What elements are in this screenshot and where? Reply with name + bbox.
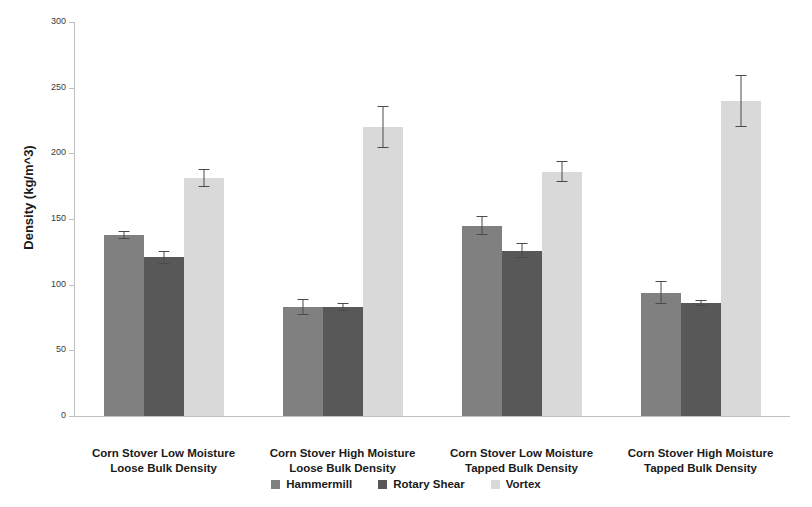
error-bar-cap-top	[337, 303, 348, 304]
y-axis-tick-mark	[69, 285, 74, 286]
bar-slot	[283, 22, 323, 416]
error-bar	[521, 243, 522, 259]
error-bar	[302, 299, 303, 315]
plot-area: 300250200150100500 Corn Stover Low Moist…	[74, 22, 790, 416]
y-axis-tick-mark	[69, 416, 74, 417]
y-axis-tick-mark	[69, 153, 74, 154]
bar-group	[641, 22, 761, 416]
error-bar-cap-top	[377, 106, 388, 107]
error-bar	[700, 300, 701, 305]
legend-swatch	[271, 480, 280, 489]
category-label-line: Tapped Bulk Density	[605, 461, 796, 476]
category-label-line: Loose Bulk Density	[247, 461, 438, 476]
error-bar	[481, 216, 482, 234]
legend-swatch	[491, 480, 500, 489]
y-axis-title: Density (kg/m^3)	[21, 108, 36, 288]
error-bar-cap-bottom	[297, 314, 308, 315]
error-bar-cap-top	[516, 243, 527, 244]
bar-vortex	[721, 101, 761, 416]
error-bar-cap-bottom	[516, 257, 527, 258]
error-bar-cap-bottom	[198, 186, 209, 187]
bar-hammermill	[104, 235, 144, 416]
bar-slot	[542, 22, 582, 416]
y-axis-tick-label: 150	[28, 214, 66, 223]
error-bar-cap-top	[556, 161, 567, 162]
bar-chart: Density (kg/m^3) 300250200150100500 Corn…	[0, 0, 812, 507]
error-bar	[163, 251, 164, 264]
y-axis-tick-mark	[69, 350, 74, 351]
bar-hammermill	[462, 226, 502, 416]
category-label-line: Tapped Bulk Density	[426, 461, 617, 476]
y-axis-tick-label: 300	[28, 17, 66, 26]
error-bar-cap-top	[118, 231, 129, 232]
error-bar-cap-top	[735, 75, 746, 76]
bar-slot	[144, 22, 184, 416]
legend-item-vortex: Vortex	[491, 478, 541, 490]
bar-group	[104, 22, 224, 416]
y-axis-tick-mark	[69, 219, 74, 220]
category-label-line: Loose Bulk Density	[68, 461, 259, 476]
bar-vortex	[542, 172, 582, 416]
error-bar-cap-bottom	[476, 234, 487, 235]
error-bar	[342, 303, 343, 311]
y-axis-tick-label: 250	[28, 83, 66, 92]
y-axis-line	[74, 22, 75, 416]
error-bar-cap-top	[198, 169, 209, 170]
bar-vortex	[184, 178, 224, 416]
error-bar	[203, 169, 204, 187]
error-bar-cap-bottom	[158, 263, 169, 264]
category-label: Corn Stover High MoistureLoose Bulk Dens…	[247, 446, 438, 476]
bar-hammermill	[283, 307, 323, 416]
bar-rotary-shear	[144, 257, 184, 416]
error-bar-cap-top	[695, 300, 706, 301]
legend-label: Vortex	[506, 478, 541, 490]
bar-rotary-shear	[323, 307, 363, 416]
error-bar-cap-bottom	[735, 126, 746, 127]
bar-rotary-shear	[681, 303, 721, 416]
category-label-line: Corn Stover High Moisture	[247, 446, 438, 461]
bar-slot	[462, 22, 502, 416]
chart-legend: HammermillRotary ShearVortex	[0, 478, 812, 490]
error-bar-cap-bottom	[695, 305, 706, 306]
bar-slot	[104, 22, 144, 416]
error-bar	[123, 231, 124, 239]
category-label-line: Corn Stover High Moisture	[605, 446, 796, 461]
bar-slot	[721, 22, 761, 416]
error-bar-cap-top	[158, 251, 169, 252]
bar-slot	[681, 22, 721, 416]
bar-slot	[641, 22, 681, 416]
error-bar-cap-bottom	[337, 310, 348, 311]
error-bar-cap-bottom	[556, 181, 567, 182]
bar-hammermill	[641, 293, 681, 416]
y-axis-tick-mark	[69, 22, 74, 23]
category-label: Corn Stover Low MoistureTapped Bulk Dens…	[426, 446, 617, 476]
y-axis-tick-label: 50	[28, 345, 66, 354]
y-axis-tick-label: 100	[28, 280, 66, 289]
error-bar	[740, 75, 741, 128]
error-bar-cap-bottom	[655, 303, 666, 304]
category-label-line: Corn Stover Low Moisture	[68, 446, 259, 461]
legend-item-rotary-shear: Rotary Shear	[378, 478, 465, 490]
bar-group	[462, 22, 582, 416]
error-bar	[561, 161, 562, 182]
bar-group	[283, 22, 403, 416]
legend-label: Rotary Shear	[393, 478, 465, 490]
y-axis-tick-mark	[69, 88, 74, 89]
category-label: Corn Stover Low MoistureLoose Bulk Densi…	[68, 446, 259, 476]
error-bar-cap-top	[297, 299, 308, 300]
legend-label: Hammermill	[286, 478, 352, 490]
y-axis-tick-label: 200	[28, 148, 66, 157]
error-bar-cap-top	[476, 216, 487, 217]
error-bar	[382, 106, 383, 148]
bar-slot	[502, 22, 542, 416]
category-label-line: Corn Stover Low Moisture	[426, 446, 617, 461]
bar-slot	[323, 22, 363, 416]
error-bar	[660, 281, 661, 305]
error-bar-cap-top	[655, 281, 666, 282]
y-axis-tick-label: 0	[28, 411, 66, 420]
legend-item-hammermill: Hammermill	[271, 478, 352, 490]
bar-rotary-shear	[502, 251, 542, 416]
bar-slot	[184, 22, 224, 416]
error-bar-cap-bottom	[377, 147, 388, 148]
x-axis-line	[74, 416, 790, 417]
